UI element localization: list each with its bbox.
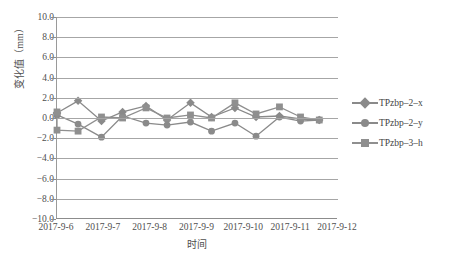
y-tick-mark (51, 98, 56, 99)
y-tick-label: −6.0 (8, 174, 54, 184)
x-axis-title: 时间 (56, 236, 337, 251)
gridline (57, 158, 338, 159)
data-point-marker (98, 114, 105, 121)
gridline (57, 57, 338, 58)
data-point-marker (232, 120, 239, 127)
x-axis-tick-labels: 2017-9-62017-9-72017-9-82017-9-92017-9-1… (0, 221, 449, 235)
y-tick-label: 6.0 (8, 52, 54, 62)
legend-item-label: TPzbp–2–x (378, 97, 423, 109)
y-tick-mark (51, 17, 56, 18)
gridline (57, 199, 338, 200)
gridline (57, 179, 338, 180)
y-tick-label: 10.0 (8, 12, 54, 22)
y-tick-label: −2.0 (8, 133, 54, 143)
data-point-marker (143, 105, 150, 112)
x-tick-label: 2017-9-7 (85, 221, 120, 233)
legend-item-label: TPzbp–2–y (378, 117, 423, 129)
data-point-marker (75, 121, 82, 128)
gridline (57, 98, 338, 99)
y-tick-label: 8.0 (8, 32, 54, 42)
data-point-marker (187, 119, 194, 126)
data-point-marker (208, 128, 215, 135)
x-tick-label: 2017-9-9 (179, 221, 214, 233)
gridline (57, 138, 338, 139)
y-tick-mark (51, 118, 56, 119)
x-tick-label: 2017-9-10 (224, 221, 264, 233)
legend-item-label: TPzbp–3–h (378, 137, 423, 149)
y-tick-label: −4.0 (8, 153, 54, 163)
y-tick-mark (51, 37, 56, 38)
x-tick-label: 2017-9-8 (132, 221, 167, 233)
y-tick-label: −8.0 (8, 194, 54, 204)
x-tick-label: 2017-9-11 (271, 221, 310, 233)
y-tick-mark (51, 219, 56, 220)
legend-diamond-icon (352, 96, 378, 110)
x-axis-line (56, 218, 337, 219)
data-point-marker (164, 122, 171, 129)
gridline (57, 118, 338, 119)
y-tick-mark (51, 179, 56, 180)
data-point-marker (75, 128, 82, 135)
y-tick-mark (51, 158, 56, 159)
y-tick-label: 2.0 (8, 93, 54, 103)
x-tick-label: 2017-9-12 (317, 221, 357, 233)
y-tick-mark (51, 199, 56, 200)
data-point-marker (276, 103, 283, 110)
data-point-marker (143, 120, 150, 127)
plot-area (56, 17, 337, 219)
legend-square-icon (352, 136, 378, 150)
data-point-marker (98, 134, 105, 141)
data-point-marker (232, 99, 239, 106)
data-point-marker (276, 114, 283, 121)
gridline (57, 17, 338, 18)
legend-circle-icon (352, 116, 378, 130)
legend-item[interactable]: TPzbp–2–x (352, 93, 448, 113)
data-point-marker (54, 127, 61, 134)
y-tick-mark (51, 78, 56, 79)
data-point-marker (253, 111, 260, 118)
legend: TPzbp–2–xTPzbp–2–yTPzbp–3–h (352, 93, 448, 153)
y-tick-mark (51, 138, 56, 139)
line-chart: 变化值（mm） 10.08.06.04.02.00.0−2.0−4.0−6.0−… (0, 0, 449, 255)
y-tick-label: 0.0 (8, 113, 54, 123)
y-tick-mark (51, 57, 56, 58)
data-point-marker (54, 109, 61, 116)
gridline (57, 37, 338, 38)
gridline (57, 78, 338, 79)
legend-item[interactable]: TPzbp–3–h (352, 133, 448, 153)
x-tick-label: 2017-9-6 (39, 221, 74, 233)
data-point-marker (297, 114, 304, 121)
legend-item[interactable]: TPzbp–2–y (352, 113, 448, 133)
y-axis-tick-labels: 10.08.06.04.02.00.0−2.0−4.0−6.0−8.0−10.0 (4, 0, 54, 255)
y-tick-label: 4.0 (8, 73, 54, 83)
